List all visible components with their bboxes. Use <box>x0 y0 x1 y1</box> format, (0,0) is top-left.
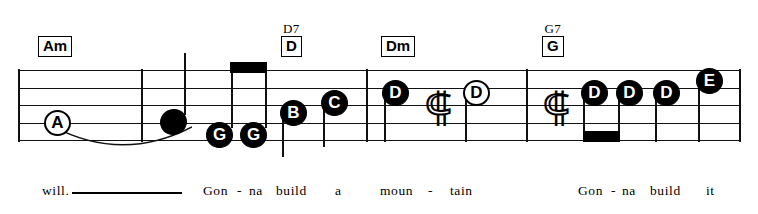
lyric-moun: moun <box>380 183 413 199</box>
chord-g[interactable]: G7G <box>542 22 564 57</box>
sheet-music-excerpt: AmD7DDmG7GAGGBCDDDDDE⸿⸿will.Gon-nabuilda… <box>0 0 758 214</box>
barline-start <box>18 69 20 142</box>
lyric-gon1: Gon <box>203 183 228 199</box>
note-tie-head-stem <box>184 53 186 115</box>
note-g[interactable]: G <box>206 122 233 148</box>
chord-dm[interactable]: Dm <box>381 36 415 57</box>
staff-line <box>18 70 740 71</box>
note-d[interactable]: D <box>653 80 680 106</box>
staff <box>0 0 758 214</box>
lyric-extender-will <box>72 192 182 194</box>
chord-g-alt-label: G7 <box>544 22 561 35</box>
note-d[interactable]: D <box>382 80 409 106</box>
note-g[interactable]: G <box>240 122 267 148</box>
lyric-build1: build <box>276 183 307 199</box>
chord-d[interactable]: D7D <box>281 22 302 57</box>
barline-2 <box>366 69 368 142</box>
lyric-dash3: - <box>611 183 616 199</box>
note-d[interactable]: D <box>463 80 490 106</box>
note-d[interactable]: D <box>581 80 608 106</box>
lyric-build2: build <box>650 183 681 199</box>
lyric-will: will. <box>42 183 69 199</box>
rest-1: ⸿ <box>424 87 452 127</box>
chord-d-label: D <box>281 36 302 57</box>
note-d[interactable]: D <box>616 80 643 106</box>
lyric-gon2: Gon <box>578 183 603 199</box>
lyric-dash1: - <box>237 183 242 199</box>
note-g1-stem <box>231 66 233 128</box>
lyric-it: it <box>706 183 715 199</box>
chord-am-label: Am <box>38 36 72 57</box>
barline-3 <box>526 69 528 142</box>
note-c[interactable]: C <box>321 90 348 116</box>
chord-g-label: G <box>542 36 564 57</box>
note-a[interactable]: A <box>44 110 71 136</box>
chord-dm-label: Dm <box>381 36 415 57</box>
beam-lower-dd <box>583 131 620 142</box>
rest-2: ⸿ <box>542 87 570 127</box>
note-b[interactable]: B <box>280 100 307 126</box>
chord-d-alt-label: D7 <box>283 22 300 35</box>
staff-line <box>18 123 740 124</box>
barline-end <box>739 69 741 142</box>
beam-upper-gg <box>230 62 267 73</box>
lyric-dash2: - <box>428 183 433 199</box>
chord-am[interactable]: Am <box>38 36 72 57</box>
lyric-na2: na <box>622 183 636 199</box>
lyric-a: a <box>335 183 342 199</box>
lyric-na1: na <box>249 183 263 199</box>
note-e[interactable]: E <box>696 68 723 94</box>
lyric-tain: tain <box>450 183 473 199</box>
note-g2-stem <box>265 66 267 128</box>
